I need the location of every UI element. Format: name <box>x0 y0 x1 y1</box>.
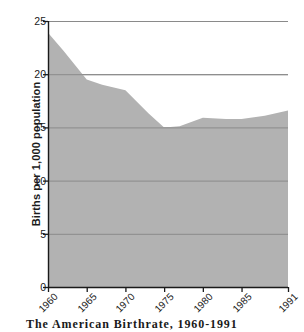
y-tick-label-0: 0 <box>16 282 46 293</box>
area-chart-plot <box>0 0 304 300</box>
y-tick-label-20: 20 <box>16 69 46 80</box>
y-tick-label-15: 15 <box>16 122 46 133</box>
figure-caption: The American Birthrate, 1960-1991 <box>26 317 238 332</box>
y-axis-ticks <box>43 22 48 288</box>
y-tick-label-10: 10 <box>16 176 46 187</box>
y-tick-label-25: 25 <box>16 16 46 27</box>
area-series-births <box>48 33 288 287</box>
y-tick-label-5: 5 <box>16 229 46 240</box>
